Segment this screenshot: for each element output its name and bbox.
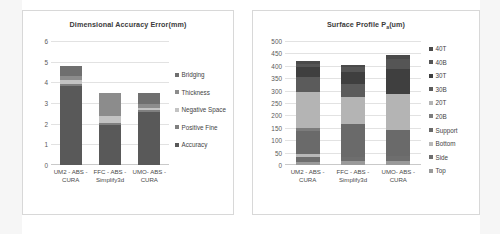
- gridline: [51, 62, 169, 63]
- legend-label: Top: [436, 167, 446, 174]
- legend-item[interactable]: 20T: [429, 99, 458, 106]
- bar-segment[interactable]: [296, 67, 320, 77]
- y-axis-tick-label: 4: [44, 79, 48, 86]
- legend-swatch-icon: [429, 142, 433, 146]
- bar-segment[interactable]: [296, 162, 320, 165]
- legend-label: Side: [436, 154, 449, 161]
- legend-swatch-icon: [429, 114, 433, 118]
- legend-swatch-icon: [175, 108, 179, 112]
- bar-segment[interactable]: [386, 161, 410, 165]
- plot-area-dimensional-accuracy-error: 0123456UM2 - ABS - CURAFFC - ABS - Simpl…: [51, 41, 169, 165]
- chart-title-text: Dimensional Accuracy Error(mm): [70, 20, 187, 29]
- x-axis-category-label: UM2 - ABS - CURA: [51, 168, 90, 184]
- gridline: [51, 41, 169, 42]
- y-axis-tick-label: 150: [271, 124, 282, 131]
- chart-panel-dimensional-accuracy-error: Dimensional Accuracy Error(mm) 0123456UM…: [22, 10, 234, 215]
- y-axis-tick-label: 350: [271, 75, 282, 82]
- bar-column[interactable]: [296, 61, 320, 165]
- bar-segment[interactable]: [138, 93, 160, 104]
- legend-item[interactable]: 30B: [429, 86, 458, 93]
- legend-label: Accuracy: [182, 141, 208, 148]
- legend-swatch-icon: [429, 169, 433, 173]
- bar-column[interactable]: [60, 66, 82, 165]
- bar-segment[interactable]: [296, 131, 320, 154]
- plot-area-surface-profile: 050100150200250300350400450500UM2 - ABS …: [285, 41, 421, 165]
- bar-segment[interactable]: [386, 94, 410, 131]
- x-axis-category-label: UMO- ABS - CURA: [130, 168, 169, 184]
- legend-item[interactable]: Positive Fine: [175, 124, 226, 131]
- y-axis-tick-label: 100: [271, 137, 282, 144]
- chart-title-subscript: a: [386, 24, 389, 30]
- y-axis-tick-label: 250: [271, 100, 282, 107]
- legend-dimensional-accuracy-error: BridgingThicknessNegative SpacePositive …: [175, 71, 226, 148]
- legend-swatch-icon: [429, 101, 433, 105]
- chart-panel-surface-profile: Surface Profile Pa(um) 05010015020025030…: [252, 10, 480, 215]
- y-axis-tick-label: 5: [44, 58, 48, 65]
- bar-column[interactable]: [386, 55, 410, 165]
- chart-title-unit: (um): [389, 20, 405, 29]
- bar-segment[interactable]: [341, 84, 365, 97]
- legend-item[interactable]: Side: [429, 154, 458, 161]
- y-axis-tick-label: 450: [271, 50, 282, 57]
- legend-item[interactable]: 20B: [429, 113, 458, 120]
- legend-item[interactable]: Thickness: [175, 89, 226, 96]
- bar-segment[interactable]: [341, 124, 365, 157]
- bar-segment[interactable]: [341, 161, 365, 165]
- legend-surface-profile: 40T40B30T30B20T20BSupportBottomSideTop: [429, 45, 458, 174]
- legend-label: Positive Fine: [182, 124, 218, 131]
- legend-swatch-icon: [175, 73, 179, 77]
- legend-swatch-icon: [175, 125, 179, 129]
- legend-item[interactable]: 40T: [429, 45, 458, 52]
- bar-segment[interactable]: [296, 77, 320, 91]
- bar-column[interactable]: [138, 93, 160, 165]
- x-axis-category-label: UMO- ABS - CURA: [376, 168, 421, 184]
- bar-segment[interactable]: [386, 130, 410, 155]
- legend-item[interactable]: 30T: [429, 72, 458, 79]
- chart-title-surface-profile: Surface Profile Pa(um): [253, 20, 479, 29]
- y-axis-tick-label: 500: [271, 38, 282, 45]
- legend-label: Negative Space: [182, 106, 226, 113]
- legend-item[interactable]: 40B: [429, 59, 458, 66]
- screenshot-root: Dimensional Accuracy Error(mm) 0123456UM…: [0, 0, 500, 234]
- bar-segment[interactable]: [296, 92, 320, 129]
- y-axis-tick-label: 400: [271, 62, 282, 69]
- legend-label: 30T: [436, 72, 447, 79]
- legend-swatch-icon: [175, 90, 179, 94]
- bar-column[interactable]: [99, 93, 121, 165]
- legend-item[interactable]: Accuracy: [175, 141, 226, 148]
- bar-segment[interactable]: [386, 69, 410, 94]
- legend-item[interactable]: Bridging: [175, 71, 226, 78]
- bar-segment[interactable]: [341, 97, 365, 124]
- bar-column[interactable]: [341, 65, 365, 165]
- bar-segment[interactable]: [60, 86, 82, 165]
- bar-segment[interactable]: [99, 93, 121, 116]
- page-margin-right: [480, 0, 500, 234]
- bar-segment[interactable]: [99, 116, 121, 123]
- legend-item[interactable]: Support: [429, 127, 458, 134]
- legend-item[interactable]: Top: [429, 167, 458, 174]
- y-axis-tick-label: 300: [271, 87, 282, 94]
- x-axis-category-label: FFC - ABS - Simplify3d: [330, 168, 375, 184]
- legend-label: 40T: [436, 45, 447, 52]
- bar-segment[interactable]: [341, 72, 365, 84]
- bar-segment[interactable]: [138, 112, 160, 165]
- y-axis-tick-label: 0: [44, 162, 48, 169]
- chart-title-dimensional-accuracy-error: Dimensional Accuracy Error(mm): [23, 20, 233, 29]
- legend-swatch-icon: [429, 87, 433, 91]
- y-axis-tick-label: 2: [44, 120, 48, 127]
- legend-item[interactable]: Bottom: [429, 140, 458, 147]
- bar-segment[interactable]: [386, 59, 410, 69]
- bar-segment[interactable]: [60, 66, 82, 76]
- legend-item[interactable]: Negative Space: [175, 106, 226, 113]
- y-axis-tick-label: 200: [271, 112, 282, 119]
- bar-segment[interactable]: [99, 125, 121, 165]
- legend-label: 20T: [436, 99, 447, 106]
- legend-label: 30B: [436, 86, 447, 93]
- legend-label: Thickness: [182, 89, 210, 96]
- y-axis-tick-label: 3: [44, 100, 48, 107]
- y-axis-tick-label: 50: [275, 149, 282, 156]
- legend-label: Bridging: [182, 71, 205, 78]
- y-axis-tick-label: 0: [278, 162, 282, 169]
- x-axis-category-label: FFC - ABS - Simplify3d: [90, 168, 129, 184]
- gridline: [285, 41, 421, 42]
